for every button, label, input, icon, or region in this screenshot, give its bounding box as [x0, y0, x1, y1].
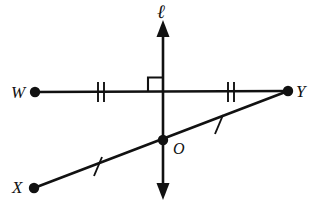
line-ell-label: ℓ [157, 2, 165, 21]
point-X-label: X [12, 179, 22, 196]
geometry-canvas [0, 0, 315, 210]
point-W-label: W [11, 84, 25, 101]
line-ell-arrow-down-icon [157, 183, 170, 200]
segment-WY [35, 91, 288, 92]
point-Y-dot [283, 86, 293, 96]
point-X-dot [29, 183, 39, 193]
line-ell-arrow-up-icon [157, 20, 170, 37]
point-O-dot [158, 135, 168, 145]
point-O-label: O [173, 141, 185, 157]
point-Y-label: Y [296, 83, 305, 100]
tick-XO-single [94, 157, 102, 176]
right-angle-mark [148, 78, 163, 93]
point-W-dot [30, 87, 40, 97]
geometry-figure: ℓ W Y X O [0, 0, 315, 210]
